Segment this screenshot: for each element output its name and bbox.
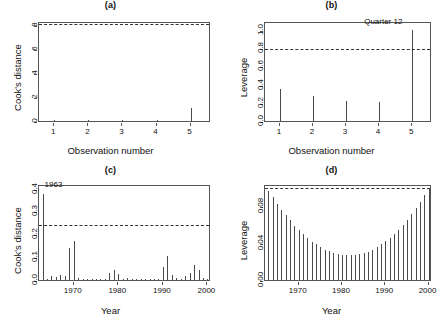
x-tick-label: 2	[310, 127, 314, 136]
data-spike	[312, 242, 313, 280]
x-tick-mark	[411, 123, 412, 126]
data-spike	[181, 279, 182, 280]
data-spike	[56, 277, 57, 280]
data-spike	[118, 274, 119, 280]
chart-panel-a: (a) Cook's distance 12345 02468 Observat…	[0, 0, 221, 165]
data-spike	[154, 279, 155, 280]
data-spike	[351, 255, 352, 280]
x-tick-label: 1990	[153, 286, 171, 295]
panel-d-y-axis-label: Leverage	[238, 196, 249, 286]
x-tick-mark	[428, 282, 429, 285]
x-tick-label: 2000	[419, 286, 437, 295]
data-spike	[207, 279, 208, 280]
y-tick-label: 0.04	[256, 234, 265, 252]
data-spike	[150, 279, 151, 280]
y-tick-label: 0.2	[256, 93, 265, 111]
x-tick-label: 1970	[289, 286, 307, 295]
data-spike	[420, 202, 421, 280]
data-spike	[290, 220, 291, 280]
data-spike	[407, 220, 408, 280]
data-spike	[96, 279, 97, 280]
data-spike	[74, 241, 75, 280]
panel-c-threshold-line	[39, 225, 209, 226]
data-spike	[176, 278, 177, 280]
data-spike	[122, 120, 123, 121]
panel-a-threshold-line	[39, 24, 209, 25]
y-tick-label: 0.00	[256, 271, 265, 289]
data-spike	[136, 279, 137, 280]
y-tick-label: 0.0	[30, 271, 39, 289]
y-tick-label: 0.4	[256, 75, 265, 93]
data-spike	[303, 234, 304, 280]
data-spike	[185, 276, 186, 280]
data-spike	[190, 273, 191, 280]
data-spike	[51, 276, 52, 280]
data-spike	[355, 255, 356, 280]
data-spike	[286, 215, 287, 280]
panel-a-title: (a)	[0, 0, 221, 10]
panel-a-y-axis-label: Cook's distance	[12, 33, 23, 123]
x-tick-label: 1	[51, 127, 55, 136]
panel-d-threshold-line	[265, 188, 430, 189]
data-spike	[325, 250, 326, 280]
y-tick-label: 0.08	[256, 197, 265, 215]
data-spike	[281, 210, 282, 280]
y-tick-label: 8	[30, 15, 39, 33]
data-spike	[127, 278, 128, 280]
data-spike	[394, 234, 395, 280]
x-tick-label: 5	[409, 127, 413, 136]
y-tick-label: 0.2	[30, 225, 39, 243]
data-spike	[385, 241, 386, 280]
data-spike	[412, 30, 413, 121]
x-tick-label: 4	[376, 127, 380, 136]
x-tick-mark	[298, 282, 299, 285]
data-spike	[60, 275, 61, 280]
x-tick-mark	[206, 282, 207, 285]
x-tick-label: 3	[343, 127, 347, 136]
y-tick-label: 0.4	[30, 179, 39, 197]
data-spike	[364, 253, 365, 280]
panel-b-plot-area: Quarter 12	[264, 22, 431, 122]
x-tick-label: 5	[187, 127, 191, 136]
data-spike	[194, 265, 195, 280]
data-spike	[157, 120, 158, 121]
x-tick-label: 1980	[332, 286, 350, 295]
data-spike	[47, 279, 48, 280]
panel-c-annotation: 1963	[45, 180, 63, 189]
data-spike	[277, 204, 278, 280]
data-spike	[191, 108, 192, 121]
data-spike	[172, 275, 173, 280]
y-tick-label: 4	[30, 63, 39, 81]
x-tick-mark	[190, 123, 191, 126]
y-tick-label: 0.6	[256, 57, 265, 75]
panel-b-x-axis-label: Observation number	[221, 145, 442, 156]
data-spike	[163, 267, 164, 280]
panel-d-spikes	[265, 186, 430, 280]
data-spike	[123, 279, 124, 280]
x-tick-mark	[279, 123, 280, 126]
y-tick-label: 0.0	[256, 112, 265, 130]
data-spike	[346, 101, 347, 121]
data-spike	[273, 197, 274, 280]
data-spike	[416, 208, 417, 280]
y-tick-label: 0	[30, 112, 39, 130]
panel-b-title: (b)	[221, 0, 442, 10]
panel-a-plot-area	[38, 22, 210, 122]
data-spike	[381, 244, 382, 280]
panel-b-y-axis-label: Leverage	[238, 33, 249, 123]
x-tick-label: 3	[119, 127, 123, 136]
data-spike	[114, 270, 115, 280]
y-tick-label: 0.8	[256, 39, 265, 57]
panel-b-annotation: Quarter 12	[364, 17, 402, 26]
data-spike	[424, 195, 425, 280]
panel-b-threshold-line	[265, 49, 430, 50]
data-spike	[203, 278, 204, 280]
x-tick-mark	[73, 282, 74, 285]
panel-c-y-axis-label: Cook's distance	[12, 196, 23, 286]
data-spike	[132, 279, 133, 280]
data-spike	[145, 279, 146, 280]
panel-d-x-axis-label: Year	[221, 305, 442, 316]
y-tick-label: 0.3	[30, 202, 39, 220]
data-spike	[65, 276, 66, 280]
data-spike	[359, 254, 360, 280]
